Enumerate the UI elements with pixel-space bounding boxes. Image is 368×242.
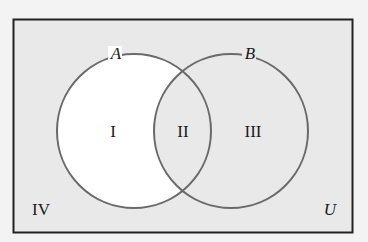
set-b-label: B xyxy=(245,44,256,63)
region-iv-label: IV xyxy=(32,200,51,219)
universe-label: U xyxy=(324,200,338,219)
set-a-label: A xyxy=(110,44,122,63)
region-iii-label: III xyxy=(245,122,262,141)
region-i-label: I xyxy=(110,122,116,141)
venn-diagram: A B I II III IV U xyxy=(0,0,368,242)
region-ii-label: II xyxy=(177,122,189,141)
